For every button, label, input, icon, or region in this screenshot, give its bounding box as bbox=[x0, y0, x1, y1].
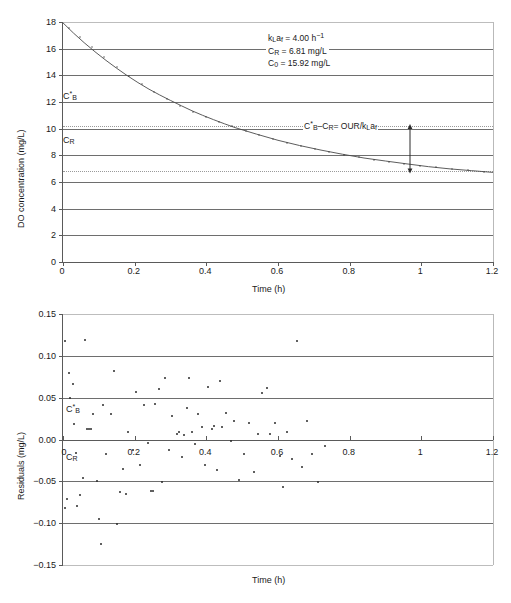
scatter-point bbox=[154, 403, 156, 405]
residuals-right-border bbox=[493, 314, 494, 565]
scatter-point bbox=[306, 420, 308, 422]
scatter-point bbox=[186, 407, 188, 409]
ytick-label: 0 bbox=[30, 257, 56, 267]
gridline-neg015 bbox=[63, 565, 493, 566]
xtick-label: 0.6 bbox=[271, 447, 284, 457]
scatter-point bbox=[176, 433, 178, 435]
scatter-point bbox=[233, 420, 235, 422]
xtick-label: 0 bbox=[59, 266, 64, 276]
scatter-point bbox=[64, 507, 66, 509]
label-cstar-b: C*B bbox=[63, 90, 77, 101]
scatter-point bbox=[66, 498, 68, 500]
scatter-point bbox=[183, 434, 185, 436]
ytick-label: 18 bbox=[30, 17, 56, 27]
scatter-point bbox=[248, 422, 250, 424]
scatter-point bbox=[211, 428, 213, 430]
plot-right-border bbox=[493, 22, 494, 262]
scatter-point bbox=[152, 490, 154, 492]
scatter-point bbox=[317, 481, 319, 483]
residuals-x-axis-title: Time (h) bbox=[252, 575, 285, 585]
scatter-point bbox=[296, 340, 298, 342]
scatter-point bbox=[100, 543, 102, 545]
do-decay-y-axis-title: DO concentration (mg/L) bbox=[16, 129, 26, 228]
ytick-label: −0.15 bbox=[24, 560, 56, 570]
scatter-point bbox=[158, 388, 160, 390]
xtick-label: 0.8 bbox=[342, 447, 355, 457]
scatter-point bbox=[181, 456, 183, 458]
scatter-point bbox=[82, 477, 84, 479]
scatter-point bbox=[282, 486, 284, 488]
scatter-point bbox=[139, 464, 141, 466]
residuals-scatter-layer bbox=[63, 314, 493, 565]
scatter-point bbox=[64, 340, 66, 342]
scatter-point bbox=[90, 428, 92, 430]
scatter-point bbox=[119, 491, 121, 493]
scatter-point bbox=[161, 481, 163, 483]
xtick-label: 1.2 bbox=[486, 266, 499, 276]
ytick-label: 8 bbox=[30, 150, 56, 160]
scatter-point bbox=[135, 391, 137, 393]
param-c0: C0 = 15.92 mg/L bbox=[266, 58, 332, 71]
ytick-label: 2 bbox=[30, 230, 56, 240]
scatter-point bbox=[143, 404, 145, 406]
scatter-point bbox=[178, 431, 180, 433]
xtick-label: 0.2 bbox=[127, 447, 140, 457]
ytick-label: 12 bbox=[30, 97, 56, 107]
ytick-label: 0.10 bbox=[24, 351, 56, 361]
scatter-point bbox=[311, 453, 313, 455]
scatter-point bbox=[253, 471, 255, 473]
scatter-point bbox=[257, 433, 259, 435]
scatter-point bbox=[84, 339, 86, 341]
ytick-label: 10 bbox=[30, 124, 56, 134]
scientific-figure: DO concentration (mg/L) bbox=[0, 0, 511, 603]
do-decay-x-axis-title: Time (h) bbox=[252, 284, 285, 294]
scatter-point bbox=[301, 466, 303, 468]
scatter-point bbox=[204, 464, 206, 466]
caption-remnant-strip bbox=[0, 589, 511, 603]
ytick-label: 4 bbox=[30, 204, 56, 214]
xtick-label: 0.8 bbox=[342, 266, 355, 276]
scatter-point bbox=[225, 412, 227, 414]
scatter-point bbox=[238, 479, 240, 481]
ytick-label: −0.10 bbox=[24, 518, 56, 528]
scatter-point bbox=[147, 442, 149, 444]
ytick-label: 16 bbox=[30, 44, 56, 54]
ytick-label: 0.15 bbox=[24, 309, 56, 319]
scatter-point bbox=[266, 387, 268, 389]
scatter-point bbox=[79, 494, 81, 496]
param-kla: kLaf = 4.00 h−1 bbox=[266, 30, 326, 46]
ytick-label: 0.00 bbox=[24, 435, 56, 445]
scatter-point bbox=[188, 377, 190, 379]
scatter-point bbox=[221, 426, 223, 428]
scatter-point bbox=[230, 440, 232, 442]
param-cr: CR = 6.81 mg/L bbox=[266, 46, 329, 59]
scatter-point bbox=[197, 413, 199, 415]
scatter-point bbox=[72, 383, 74, 385]
scatter-point bbox=[164, 377, 166, 379]
xtick-label: 0.4 bbox=[199, 266, 212, 276]
label-cr: CR bbox=[63, 135, 75, 145]
scatter-point bbox=[243, 453, 245, 455]
scatter-point bbox=[96, 480, 98, 482]
scatter-point bbox=[122, 468, 124, 470]
scatter-point bbox=[207, 386, 209, 388]
residuals-plot-area bbox=[62, 314, 492, 565]
scatter-point bbox=[216, 469, 218, 471]
scatter-point bbox=[261, 392, 263, 394]
scatter-point bbox=[73, 423, 75, 425]
do-decay-panel: DO concentration (mg/L) bbox=[0, 0, 511, 300]
ytickmark bbox=[59, 565, 63, 566]
scatter-point bbox=[171, 415, 173, 417]
scatter-point bbox=[102, 404, 104, 406]
residuals-panel: Residuals (mg/L) bbox=[0, 300, 511, 603]
scatter-point bbox=[274, 422, 276, 424]
xtick-label: 1.2 bbox=[486, 447, 499, 457]
xtick-label: 0.2 bbox=[127, 266, 140, 276]
scatter-point bbox=[110, 413, 112, 415]
scatter-point bbox=[127, 431, 129, 433]
xtick-label: 0.4 bbox=[199, 447, 212, 457]
scatter-point bbox=[324, 445, 326, 447]
difference-formula: C*B–CR= OUR/kLaf bbox=[303, 120, 378, 131]
scatter-point bbox=[92, 413, 94, 415]
scatter-point bbox=[76, 505, 78, 507]
